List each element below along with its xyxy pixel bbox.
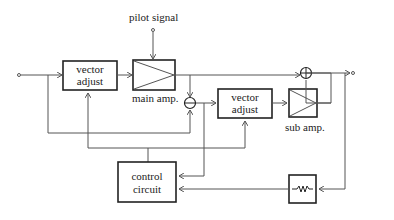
svg-text:control: control [131,170,162,182]
feedforward-amplifier-diagram: pilot signal vector adjust main amp. vec… [0,0,394,220]
attenuator-resistor-icon [289,175,316,203]
svg-text:vector: vector [231,91,259,103]
svg-text:circuit: circuit [133,183,161,195]
sub-amp-label: sub amp. [285,121,325,133]
control-circuit-block: control circuit [118,162,176,202]
input-terminal [18,74,21,77]
subtractor-junction-icon [185,98,196,109]
output-terminal [352,72,355,75]
svg-text:vector: vector [76,63,104,75]
svg-text:adjust: adjust [77,75,103,87]
pilot-signal-label: pilot signal [129,11,178,23]
vector-adjust-1-block: vector adjust [63,61,117,90]
svg-text:adjust: adjust [232,103,258,115]
pilot-signal-terminal [152,29,155,32]
main-amp-label: main amp. [132,92,179,104]
vector-adjust-2-block: vector adjust [218,89,272,118]
main-amp-block [133,60,175,90]
